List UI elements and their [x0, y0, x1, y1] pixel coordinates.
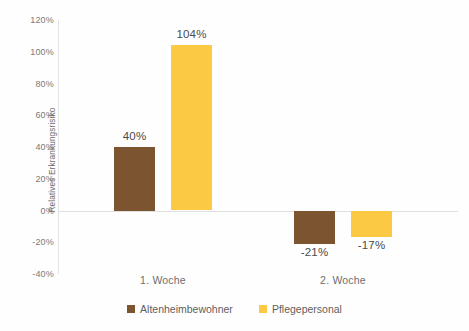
x-axis-category-label: 1. Woche	[98, 274, 228, 286]
y-axis-tick-label: -40%	[8, 269, 54, 279]
bar-value-label: -17%	[337, 239, 407, 251]
y-axis-tick-labels: 120%100%80%60%40%20%0%-20%-40%	[8, 0, 54, 331]
y-axis-tick-label: 40%	[8, 142, 54, 152]
chart-legend: AltenheimbewohnerPflegepersonal	[0, 303, 469, 315]
y-axis-tick-label: 80%	[8, 79, 54, 89]
bar	[171, 45, 212, 210]
zero-baseline	[58, 211, 458, 212]
legend-entry[interactable]: Pflegepersonal	[259, 303, 342, 315]
legend-entry[interactable]: Altenheimbewohner	[127, 303, 233, 315]
y-axis-tick-label: 60%	[8, 110, 54, 120]
plot-area: 40%104%1. Woche-21%-17%2. Woche	[58, 20, 458, 274]
legend-swatch-icon	[259, 305, 267, 313]
y-axis-tick-label: 100%	[8, 47, 54, 57]
y-axis-line	[58, 20, 59, 274]
bar-value-label: 104%	[157, 28, 227, 40]
bar-chart: Relatives Erkrankungsrisiko 120%100%80%6…	[0, 0, 469, 331]
y-axis-tick-label: 0%	[8, 206, 54, 216]
y-axis-tick-label: 120%	[8, 15, 54, 25]
legend-label: Pflegepersonal	[272, 303, 342, 315]
bar	[114, 147, 155, 211]
y-axis-tick-label: -20%	[8, 237, 54, 247]
x-axis-category-label: 2. Woche	[278, 274, 408, 286]
legend-label: Altenheimbewohner	[140, 303, 233, 315]
bar-value-label: 40%	[100, 130, 170, 142]
bar	[351, 211, 392, 238]
y-axis-tick-label: 20%	[8, 174, 54, 184]
bar	[294, 211, 335, 244]
legend-swatch-icon	[127, 305, 135, 313]
